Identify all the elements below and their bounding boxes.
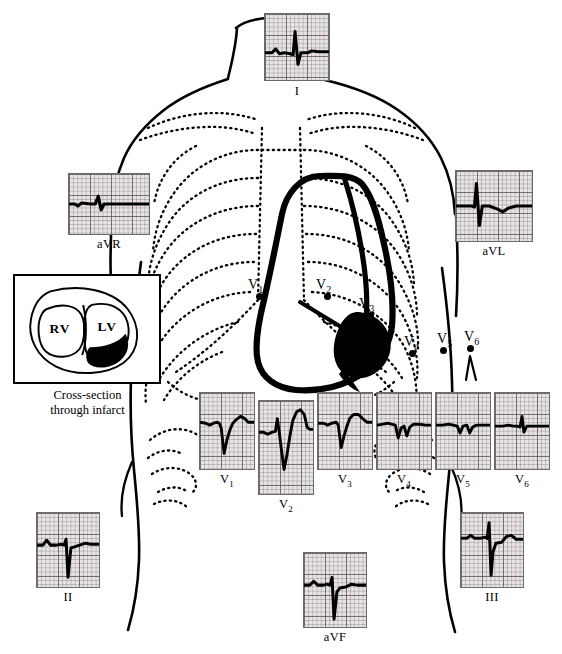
ecg-strip-avf: aVF — [303, 552, 367, 628]
ecg-paper — [460, 512, 524, 588]
caption-line-2: through infarct — [0, 403, 175, 418]
viscera-left-2 — [148, 451, 182, 458]
viscera-left-4 — [158, 488, 188, 493]
ecg-trace-svg — [69, 174, 149, 234]
electrode-label-v2: V2 — [316, 277, 331, 295]
ecg-paper — [199, 392, 255, 470]
figure-canvas: V1V2V3V4V5V6 RV LV Cross-section through… — [0, 0, 562, 654]
ecg-label-iii: III — [460, 590, 524, 605]
rib-l2 — [153, 150, 258, 252]
ecg-waveform — [495, 416, 549, 432]
ecg-strip-ii: II — [36, 512, 100, 588]
lead-base: V — [338, 472, 347, 486]
electrode-label-v4: V4 — [404, 334, 419, 352]
ecg-trace-svg — [304, 553, 366, 627]
ecg-label-v2: V2 — [258, 497, 314, 514]
ecg-label-v4: V4 — [376, 472, 432, 489]
electrode-base: V — [464, 329, 474, 344]
ecg-paper — [303, 552, 367, 628]
lead-base: V — [279, 497, 288, 511]
ecg-waveform — [69, 196, 149, 210]
electrode-subscript: 4 — [414, 341, 419, 352]
ecg-paper — [435, 392, 491, 470]
electrode-label-v5: V5 — [437, 331, 452, 349]
ecg-waveform — [304, 577, 366, 619]
ecg-label-i: I — [264, 84, 330, 99]
lead-subscript: 3 — [347, 479, 352, 489]
rib-l4 — [145, 206, 258, 316]
lead-subscript: 6 — [524, 479, 529, 489]
sternum-right — [300, 128, 304, 300]
cross-section-caption: Cross-section through infarct — [0, 388, 175, 418]
left-clavicle — [148, 113, 258, 128]
viscera-right-5 — [394, 501, 428, 508]
left-clavicle-lower — [140, 127, 256, 140]
ecg-paper — [494, 392, 550, 470]
ecg-paper — [264, 13, 330, 81]
ecg-paper — [455, 170, 533, 242]
ecg-strip-avl: aVL — [455, 170, 533, 242]
ecg-strip-i: I — [264, 13, 330, 81]
electrode-base: V — [359, 296, 369, 311]
ecg-trace-svg — [259, 401, 313, 494]
ecg-strip-v3: V3 — [317, 392, 373, 470]
lv-label: LV — [98, 319, 117, 334]
caption-line-1: Cross-section — [0, 388, 175, 403]
ecg-waveform — [318, 414, 372, 447]
ecg-paper — [68, 173, 150, 235]
ecg-label-avr: aVR — [68, 237, 150, 252]
ecg-paper — [376, 392, 432, 470]
lead-subscript: 1 — [229, 479, 234, 489]
ecg-trace-svg — [200, 393, 254, 469]
ecg-label-v3: V3 — [317, 472, 373, 489]
ecg-strip-v2: V2 — [258, 400, 314, 495]
ecg-trace-svg — [318, 393, 372, 469]
electrode-subscript: 6 — [474, 336, 479, 347]
lead-base: V — [515, 472, 524, 486]
lead-base: V — [397, 472, 406, 486]
electrode-label-v6: V6 — [464, 329, 479, 347]
lead-subscript: 4 — [406, 479, 411, 489]
rib-l1 — [154, 146, 196, 204]
electrode-subscript: 2 — [326, 284, 331, 295]
electrode-base: V — [248, 277, 258, 292]
ecg-waveform — [259, 410, 313, 470]
ecg-paper — [258, 400, 314, 495]
ecg-trace-svg — [37, 513, 99, 587]
ecg-trace-svg — [436, 393, 490, 469]
lead-base: V — [220, 472, 229, 486]
ecg-waveform — [200, 416, 254, 453]
ecg-strip-v1: V1 — [199, 392, 255, 470]
ecg-waveform — [456, 184, 532, 226]
electrode-subscript: 5 — [447, 338, 452, 349]
ecg-trace-svg — [495, 393, 549, 469]
ecg-waveform — [436, 424, 490, 433]
electrode-subscript: 1 — [258, 284, 263, 295]
ecg-waveform — [461, 523, 523, 576]
right-shoulder-arm — [325, 80, 455, 214]
electrode-label-v3: V3 — [359, 296, 374, 314]
lead-subscript: 5 — [465, 479, 470, 489]
rv-label: RV — [50, 321, 71, 336]
ecg-strip-v4: V4 — [376, 392, 432, 470]
ecg-strip-v5: V5 — [435, 392, 491, 470]
left-costal-margin — [176, 300, 258, 372]
ecg-label-avl: aVL — [455, 244, 533, 259]
ecg-trace-svg — [265, 14, 329, 80]
ecg-paper — [36, 512, 100, 588]
right-clavicle — [306, 113, 415, 128]
ecg-trace-svg — [456, 171, 532, 241]
ecg-trace-svg — [377, 393, 431, 469]
ecg-strip-avr: aVR — [68, 173, 150, 235]
ecg-strip-v6: V6 — [494, 392, 550, 470]
ecg-strip-iii: III — [460, 512, 524, 588]
viscera-left-5 — [154, 501, 188, 508]
ecg-paper — [317, 392, 373, 470]
ecg-label-v1: V1 — [199, 472, 255, 489]
sternum-left — [258, 128, 262, 300]
right-clavicle-lower — [308, 127, 423, 140]
electrode-subscript: 3 — [369, 303, 374, 314]
rib-l3 — [148, 178, 258, 284]
lead-base: V — [456, 472, 465, 486]
rib-r2 — [304, 150, 409, 252]
